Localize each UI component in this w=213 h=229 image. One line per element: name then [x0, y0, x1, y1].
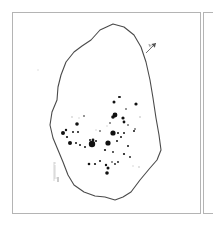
scale-bar [54, 162, 59, 182]
distribution-dot [119, 96, 121, 98]
distribution-dot [65, 129, 67, 131]
distribution-dot [99, 130, 101, 132]
distribution-dot [72, 131, 74, 133]
distribution-dot [111, 115, 115, 119]
distribution-dot [89, 139, 91, 141]
faint-dots [37, 69, 141, 168]
distribution-dot [83, 115, 85, 117]
distribution-dots [61, 96, 138, 175]
distribution-dot [61, 131, 65, 135]
distribution-dot [117, 161, 119, 163]
distribution-dot [105, 140, 110, 145]
distribution-dot [66, 136, 68, 138]
distribution-dot [113, 101, 116, 104]
distribution-dot [123, 121, 126, 124]
distribution-dot [95, 140, 97, 142]
distribution-dot [120, 136, 122, 138]
north-arrow-icon [143, 40, 157, 54]
distribution-dot [94, 163, 96, 165]
distribution-dot [127, 145, 129, 147]
distribution-dot [68, 141, 72, 145]
site-map [0, 0, 213, 229]
distribution-dot [134, 128, 136, 130]
distribution-dot [104, 149, 106, 151]
distribution-dot [123, 132, 125, 134]
distribution-dot [134, 102, 137, 105]
distribution-dot [99, 160, 101, 162]
distribution-dot [125, 108, 127, 110]
distribution-dot [75, 142, 77, 144]
distribution-dot [105, 164, 107, 166]
distribution-dot [129, 156, 131, 158]
distribution-dot [109, 122, 111, 124]
distribution-dot [84, 146, 86, 148]
distribution-dot [79, 144, 81, 146]
distribution-dot [111, 161, 113, 163]
distribution-dot [114, 163, 116, 165]
distribution-dot [127, 124, 129, 126]
distribution-dot [121, 116, 124, 119]
distribution-dot [92, 139, 95, 142]
distribution-dot [133, 130, 135, 132]
distribution-dot [117, 132, 119, 134]
distribution-dot [116, 140, 118, 142]
distribution-dot [75, 122, 79, 126]
distribution-dot [112, 151, 114, 153]
distribution-dot [123, 153, 125, 155]
distribution-dot [89, 141, 95, 147]
distribution-dot [88, 163, 91, 166]
distribution-dot [107, 167, 110, 170]
distribution-dot [105, 171, 109, 175]
distribution-dot [110, 130, 115, 135]
distribution-dot [77, 131, 79, 133]
